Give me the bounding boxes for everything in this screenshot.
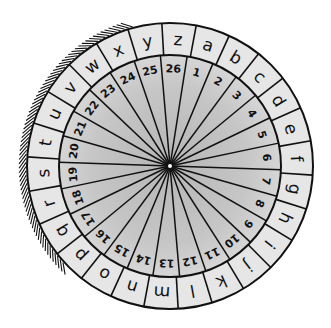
hatch-mark bbox=[21, 179, 27, 190]
hatch-mark bbox=[65, 56, 77, 58]
hatch-mark bbox=[24, 192, 29, 204]
inner-number-26: 26 bbox=[165, 62, 181, 76]
hatch-mark bbox=[60, 259, 62, 271]
inner-number-13: 13 bbox=[159, 256, 175, 270]
outer-letter-z: z bbox=[173, 29, 183, 50]
inner-number-19: 19 bbox=[66, 166, 80, 182]
hatch-mark bbox=[52, 249, 53, 261]
hatch-mark bbox=[23, 187, 28, 198]
hatch-mark bbox=[43, 235, 44, 247]
hatch-mark bbox=[89, 38, 101, 39]
hatch-mark bbox=[38, 228, 39, 240]
hatch-mark bbox=[36, 224, 38, 236]
hatch-mark bbox=[105, 30, 117, 32]
hatch-mark bbox=[32, 216, 35, 228]
hatch-mark bbox=[71, 51, 83, 52]
hatch-mark bbox=[41, 231, 42, 243]
hatch-mark bbox=[58, 256, 59, 268]
inner-number-20: 20 bbox=[67, 142, 82, 159]
hatch-mark bbox=[55, 253, 56, 265]
center-pin-hole bbox=[168, 164, 172, 168]
hatch-mark bbox=[93, 36, 105, 37]
hatch-mark bbox=[109, 28, 121, 31]
hatch-mark bbox=[34, 220, 36, 232]
outer-letter-s: s bbox=[33, 168, 53, 178]
inner-number-6: 6 bbox=[260, 153, 274, 162]
outer-letter-m: m bbox=[153, 282, 171, 303]
cipher-wheel-illustration: abcdefghijklmnopqrstuvwxyz 1234567891011… bbox=[0, 0, 331, 328]
hatch-mark bbox=[75, 48, 87, 49]
hatch-mark bbox=[101, 32, 113, 34]
hatch-mark bbox=[97, 34, 109, 36]
cipher-wheel: abcdefghijklmnopqrstuvwxyz 1234567891011… bbox=[0, 0, 331, 328]
hatch-mark bbox=[68, 53, 80, 54]
hatch-mark bbox=[22, 183, 27, 194]
